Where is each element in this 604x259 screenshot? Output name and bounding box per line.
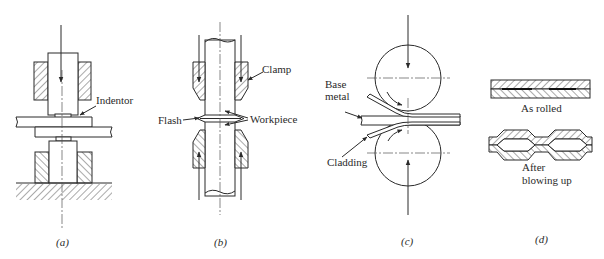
channel-1 bbox=[497, 139, 535, 151]
indentor-leader bbox=[80, 106, 96, 115]
label-flash: Flash bbox=[158, 114, 182, 126]
indentor-lower bbox=[56, 137, 71, 141]
panel-d-roll-bonded-sheet: As rolled After blowing up (d) bbox=[489, 80, 592, 246]
lower-anvil bbox=[49, 141, 77, 183]
clamp-leader bbox=[248, 72, 263, 80]
caption-a: (a) bbox=[56, 236, 69, 249]
panel-c-roll-bonding: Base metal Cladding (c) bbox=[325, 15, 460, 248]
caption-c: (c) bbox=[401, 235, 414, 248]
label-cladding: Cladding bbox=[327, 156, 368, 168]
figure-canvas: Indentor (a) Clamp Workpiece Flash (b) bbox=[0, 0, 604, 259]
label-after-line1: After bbox=[522, 161, 546, 173]
ground-hatch bbox=[16, 184, 112, 200]
panel-b-flash-welding: Clamp Workpiece Flash (b) bbox=[158, 22, 297, 249]
upper-holder-right-hatched bbox=[78, 62, 91, 100]
label-indentor: Indentor bbox=[96, 94, 134, 106]
as-rolled-top-layer bbox=[491, 80, 590, 89]
workpiece-top-plate bbox=[16, 117, 92, 127]
label-after-line2: blowing up bbox=[522, 174, 572, 186]
upper-ram bbox=[48, 53, 78, 115]
as-rolled-bottom-layer bbox=[491, 89, 590, 98]
caption-b: (b) bbox=[214, 236, 227, 249]
channel-2 bbox=[548, 139, 587, 151]
flash-leader bbox=[183, 118, 199, 120]
lower-holder-right-hatched bbox=[77, 152, 92, 183]
label-base-line2: metal bbox=[325, 90, 349, 102]
label-workpiece: Workpiece bbox=[250, 113, 297, 125]
workpiece-bottom-plate bbox=[35, 127, 112, 137]
panel-a-spot-welding: Indentor (a) bbox=[16, 25, 134, 249]
label-as-rolled: As rolled bbox=[521, 102, 562, 114]
lower-holder-left-hatched bbox=[35, 152, 49, 183]
cladding-leader bbox=[342, 137, 367, 157]
base-metal-leader bbox=[345, 112, 362, 118]
upper-holder-left-hatched bbox=[34, 62, 48, 100]
caption-d: (d) bbox=[535, 233, 548, 246]
label-base-line1: Base bbox=[325, 78, 347, 90]
label-clamp: Clamp bbox=[262, 63, 292, 75]
